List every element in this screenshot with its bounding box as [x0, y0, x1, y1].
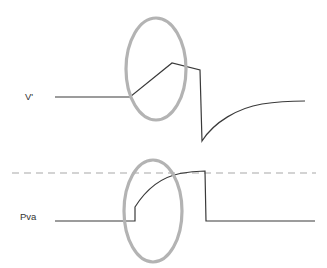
pressure-highlight-ellipse [124, 160, 182, 262]
pressure-trace-label: Pva [20, 211, 37, 222]
waveform-figure: V' Pva [0, 0, 327, 268]
flow-highlight-ellipse [126, 18, 186, 120]
flow-trace-label: V' [25, 91, 33, 102]
pressure-waveform-trace [55, 171, 315, 221]
waveform-svg-canvas: V' Pva [0, 0, 327, 268]
